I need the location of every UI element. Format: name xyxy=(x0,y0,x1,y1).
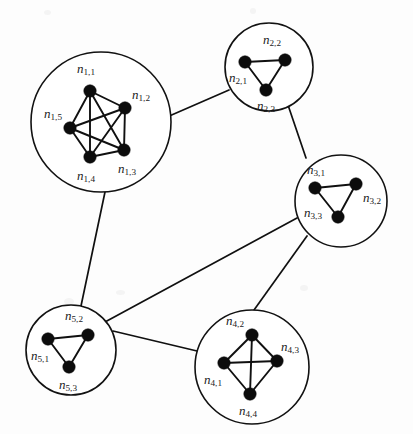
cluster-circle-layer xyxy=(26,23,387,424)
graph-node-n2_1 xyxy=(239,56,251,68)
inter-cluster-edge-c3-c5 xyxy=(105,218,297,322)
graph-node-n5_2 xyxy=(82,329,94,341)
graph-canvas: n1,1n1,2n1,5n1,3n1,4n2,1n2,2n2,3n3,1n3,2… xyxy=(0,0,413,434)
graph-node-n3_1 xyxy=(309,182,321,194)
graph-node-n1_1 xyxy=(84,85,96,97)
graph-node-n1_4 xyxy=(84,151,96,163)
inter-cluster-edge-c1-c5 xyxy=(81,192,105,306)
graph-node-n3_2 xyxy=(350,178,362,190)
graph-node-n2_3 xyxy=(260,84,272,96)
cluster-boundary-c4 xyxy=(195,310,309,424)
graph-node-n4_3 xyxy=(271,355,283,367)
graph-node-n2_2 xyxy=(279,54,291,66)
graph-node-n5_1 xyxy=(42,333,54,345)
graph-node-n3_3 xyxy=(332,211,344,223)
inter-cluster-edge-c1-c2 xyxy=(167,90,229,117)
graph-diagram: n1,1n1,2n1,5n1,3n1,4n2,1n2,2n2,3n3,1n3,2… xyxy=(0,0,413,434)
graph-node-n5_3 xyxy=(63,361,75,373)
graph-node-n4_1 xyxy=(218,357,230,369)
inter-cluster-edge-c5-c4 xyxy=(113,331,197,351)
graph-node-n1_3 xyxy=(118,144,130,156)
inter-cluster-edge-c3-c4 xyxy=(254,236,307,310)
graph-node-n4_2 xyxy=(246,329,258,341)
graph-node-n1_5 xyxy=(64,122,76,134)
graph-node-n4_4 xyxy=(244,388,256,400)
inter-cluster-edge-c2-c3 xyxy=(288,105,306,158)
graph-node-n1_2 xyxy=(119,102,131,114)
